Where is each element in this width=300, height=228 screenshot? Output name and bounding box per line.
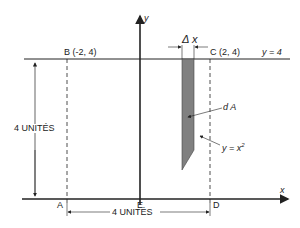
- curve-label: y = x2: [222, 142, 245, 153]
- area-strip: [182, 59, 194, 170]
- delta-x-label: Δ x: [182, 34, 198, 45]
- area-diagram: [0, 0, 300, 228]
- point-b-label: B (-2, 4): [64, 48, 97, 57]
- point-a-label: A: [57, 201, 63, 210]
- line-label: y = 4: [262, 48, 282, 57]
- x-axis-label: x: [280, 186, 285, 195]
- point-c-label: C (2, 4): [210, 48, 240, 57]
- y-axis-label: y: [144, 14, 149, 23]
- point-e-label: E: [137, 201, 143, 210]
- da-label: d A: [223, 103, 236, 112]
- width-dimension-label: 4 UNITÉS: [112, 208, 153, 217]
- point-d-label: D: [213, 201, 220, 210]
- height-dimension-label: 4 UNITÉS: [14, 124, 55, 133]
